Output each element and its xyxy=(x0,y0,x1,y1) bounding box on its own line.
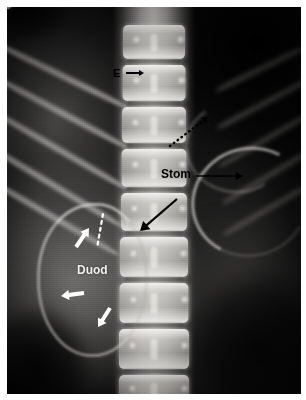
duodenum-upper-arrow xyxy=(76,228,89,247)
xray-image: E Stom Duod xyxy=(7,7,301,394)
dotted-black-arrow xyxy=(170,117,208,146)
esophagus-arrow xyxy=(126,70,144,76)
duodenojejunal-arrow xyxy=(140,199,177,231)
label-duodenum: Duod xyxy=(77,264,108,276)
stomach-arrow xyxy=(196,172,243,181)
white-dotted-marker xyxy=(97,214,103,248)
label-esophagus: E xyxy=(113,68,120,79)
duodenum-lower-arrow xyxy=(98,308,110,327)
radiograph-figure: E Stom Duod xyxy=(0,0,306,400)
duodenum-left-arrow xyxy=(61,290,84,300)
annotation-arrow-layer xyxy=(7,7,301,394)
label-stomach: Stom xyxy=(161,168,191,180)
annotation-overlay: E Stom Duod xyxy=(7,7,301,394)
film-plate: E Stom Duod xyxy=(7,7,301,394)
